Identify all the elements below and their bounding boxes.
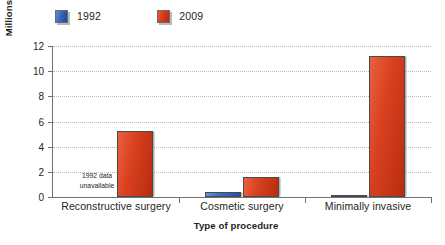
bar-2009-cosmetic-surgery [243,177,279,197]
blue-swatch-icon [55,10,68,23]
y-axis-tick [48,147,53,148]
x-axis-tick [431,197,432,203]
y-axis-tick [48,172,53,173]
x-axis-tick [305,197,306,203]
gridline [53,46,431,47]
legend-item-1992: 1992 [55,10,101,23]
y-axis-tick-label: 12 [33,41,44,52]
legend-item-2009: 2009 [157,10,203,23]
annotation-line: 1992 data [79,171,115,181]
y-axis-tick [48,122,53,123]
x-axis-tick [179,197,180,203]
bar-1992-cosmetic-surgery [205,192,241,197]
y-axis-title: Millions of procedures [2,0,16,60]
x-axis-category-label: Cosmetic surgery [200,200,283,212]
x-axis-title: Type of procedure [40,220,432,231]
y-axis-tick-label: 2 [38,166,44,177]
red-swatch-icon [157,10,170,23]
y-axis-tick [48,71,53,72]
x-axis-category-label: Minimally invasive [325,200,411,212]
plot-area: 024681012Reconstructive surgery1992 data… [52,46,431,198]
bar-1992-minimally-invasive [331,195,367,198]
chart-legend: 1992 2009 [55,6,203,26]
y-axis-tick-label: 0 [38,192,44,203]
bar-chart: 1992 2009 Millions of procedures 0246810… [0,0,445,245]
y-axis-tick-label: 10 [33,66,44,77]
y-axis-tick-label: 6 [38,116,44,127]
y-axis-tick-label: 4 [38,141,44,152]
annotation-line: unavailable [79,181,115,191]
x-axis-category-label: Reconstructive surgery [61,200,171,212]
y-axis-tick [48,96,53,97]
bar-2009-reconstructive-surgery [117,131,153,197]
y-axis-tick [48,46,53,47]
legend-label-1992: 1992 [77,10,101,22]
y-axis-tick-label: 8 [38,91,44,102]
bar-2009-minimally-invasive [369,56,405,197]
legend-label-2009: 2009 [179,10,203,22]
y-axis-tick [48,197,53,198]
missing-data-note: 1992 dataunavailable [79,171,115,191]
